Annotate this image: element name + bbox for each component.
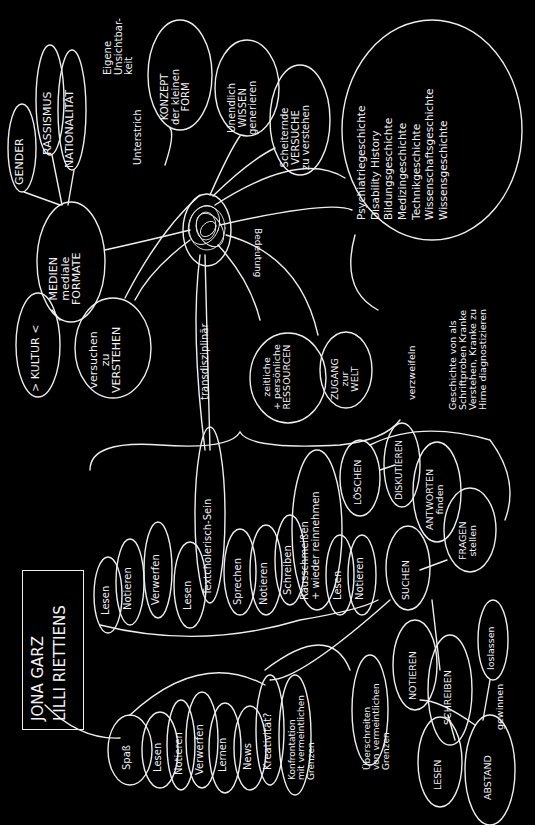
node-medien: MEDIEN mediale FORMATE (48, 253, 83, 305)
node-schreiben: SCHREIBEN (443, 670, 453, 725)
middle-item-3: Lesen (183, 581, 194, 610)
label-geschichte: Geschichte von als Schriftproben Kranke … (448, 309, 488, 410)
middle-item-5: Sprechen (233, 558, 244, 605)
node-loeschen: LÖSCHEN (353, 460, 363, 505)
bottom-item-4: Lernen (218, 738, 229, 772)
node-rassismus: RASSISMUS (42, 92, 54, 155)
bottom-item-2: Notieren (174, 732, 185, 775)
label-eigene: Eigene Unsichtbar- keit (103, 18, 135, 75)
bottom-item-3: Verwerfen (195, 724, 206, 775)
node-kultur: > KULTUR < (30, 325, 42, 392)
middle-item-7: Schreiben (283, 545, 294, 595)
bottom-item-5: News (243, 743, 254, 770)
middle-item-0: Lesen (101, 586, 112, 615)
bottom-item-6: Kreativität? (263, 713, 274, 770)
authors-line2: LILLI RIETTIENS (53, 605, 69, 721)
node-fragen: FRAGEN stellen (458, 522, 478, 560)
node-antworten: ANTWORTEN finden (425, 469, 445, 530)
node-nationalitaet: NATIONALITÄT (64, 90, 76, 168)
node-wissen: Unendlich WISSEN generieren (227, 81, 259, 135)
node-versuche: Scheiternde VERSUCHE zu verstehen (280, 105, 312, 170)
node-verstehen: versuchen zu VERSTEHEN (88, 327, 123, 393)
label-transdisziplinaer: transdisziplinär (200, 323, 211, 400)
label-konfrontation: Konfrontation mit vermeintlichen Grenzen (288, 695, 316, 780)
bottom-item-1: Lesen (153, 743, 164, 772)
node-diskutieren: DISKUTIEREN (395, 440, 404, 500)
node-notieren: NOTIEREN (408, 651, 418, 700)
middle-item-1: Notieren (123, 567, 134, 610)
middle-item-2: Verwerfen (151, 554, 162, 605)
node-ressourcen: zeitliche + persönliche RESSOURCEN (262, 344, 292, 410)
node-lesen: LESEN (433, 760, 443, 790)
authors-box: JONA GARZ LILLI RIETTIENS (22, 570, 84, 730)
authors-line1: JONA GARZ (31, 636, 47, 721)
node-loslassen: loslassen (486, 626, 496, 670)
mind-map-canvas: JONA GARZ LILLI RIETTIENS GENDER RASSISM… (0, 0, 535, 825)
label-ueberschreiten: Überschreiten von vermeintlichen Grenzen (363, 683, 391, 770)
label-unterstrich: Unterstrich (133, 109, 144, 165)
label-gewinnen: gewinnen (495, 684, 505, 730)
bottom-item-0: Spaß (122, 745, 133, 770)
node-gender: GENDER (14, 138, 26, 185)
node-history: Psychiatriegeschichte Disability History… (355, 88, 450, 220)
middle-item-8: Rausschmeißen + wieder reinnehmen (300, 491, 321, 600)
middle-item-4: Textcholerisch-Sein (203, 499, 214, 595)
label-verzweifeln: verzweifeln (407, 346, 417, 400)
node-suchen: SUCHEN (401, 560, 411, 600)
node-konzept: KONZEPT der kleinen FORM (160, 69, 192, 125)
middle-item-10: Notieren (355, 557, 366, 600)
node-abstand: ABSTAND (483, 755, 493, 800)
middle-item-6: Notieren (259, 562, 270, 605)
middle-item-9: Lesen (333, 571, 344, 600)
label-bedeutung: Bedeutung (253, 228, 262, 277)
node-zugang: ZUGANG zur WELT (330, 358, 360, 400)
